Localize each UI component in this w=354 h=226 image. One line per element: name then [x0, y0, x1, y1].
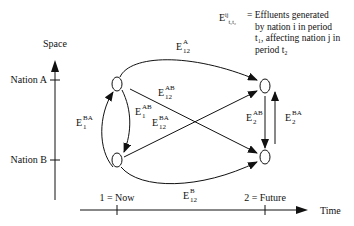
space-axis: Space Nation A Nation B — [11, 38, 68, 200]
svg-text:E: E — [152, 117, 158, 128]
edge-a1-b1 — [122, 90, 130, 152]
svg-text:E: E — [158, 87, 164, 98]
edge-a1-b2 — [130, 89, 257, 153]
label-e12-ab: E AB 12 — [158, 84, 175, 101]
svg-text:1: 1 — [83, 123, 87, 131]
svg-text:2: 2 — [292, 118, 296, 126]
svg-text:B: B — [190, 187, 195, 195]
node-b1 — [112, 153, 122, 167]
svg-text:12: 12 — [183, 47, 191, 55]
svg-text:E: E — [176, 41, 182, 52]
label-e2-ab: E AB 2 — [246, 109, 263, 126]
label-e12-ba: E BA 12 — [152, 114, 169, 131]
label-e12-a: E A 12 — [176, 38, 191, 55]
space-axis-label: Space — [43, 38, 67, 49]
svg-text:12: 12 — [159, 123, 167, 131]
edge-b1-a1 — [102, 92, 113, 167]
label-e1-ab: E AB 1 — [135, 103, 152, 120]
future-label: 2 = Future — [244, 192, 286, 203]
node-b2 — [260, 150, 270, 164]
svg-text:BA: BA — [83, 114, 93, 122]
edge-b1-b2 — [121, 162, 257, 184]
svg-text:E: E — [246, 112, 252, 123]
label-e1-ba: E BA 1 — [76, 114, 93, 131]
edge-a1-a2 — [120, 60, 257, 80]
svg-text:2: 2 — [253, 118, 257, 126]
legend-line-2: by nation i in period — [247, 22, 340, 34]
svg-text:AB: AB — [142, 103, 152, 111]
label-e12-b: E B 12 — [183, 187, 198, 204]
time-axis: Time 1 = Now 2 = Future — [80, 192, 341, 216]
svg-text:AB: AB — [253, 109, 263, 117]
svg-text:AB: AB — [165, 84, 175, 92]
time-axis-arrow-icon — [296, 206, 308, 214]
legend-line-4: period t₂ — [247, 45, 340, 57]
label-e2-ba: E BA 2 — [285, 109, 302, 126]
svg-text:12: 12 — [165, 93, 173, 101]
now-label: 1 = Now — [99, 192, 135, 203]
legend-symbol: Eijt₁t₂ — [219, 10, 236, 29]
node-a1 — [112, 77, 122, 91]
edge-b1-a2 — [124, 91, 257, 157]
svg-text:12: 12 — [190, 196, 198, 204]
legend: Eijt₁t₂ = Effluents generated by nation … — [247, 10, 340, 56]
time-axis-label: Time — [320, 205, 341, 216]
svg-text:A: A — [183, 38, 188, 46]
space-axis-arrow-icon — [51, 60, 59, 72]
svg-text:E: E — [183, 190, 189, 201]
legend-line-3: t₁, affecting nation j in — [247, 33, 340, 45]
svg-text:BA: BA — [292, 109, 302, 117]
svg-text:1: 1 — [142, 112, 146, 120]
legend-line-1: = Effluents generated — [247, 10, 340, 22]
svg-text:BA: BA — [159, 114, 169, 122]
node-a2 — [260, 79, 270, 93]
nation-b-label: Nation B — [11, 154, 48, 165]
svg-text:E: E — [285, 112, 291, 123]
svg-text:E: E — [76, 117, 82, 128]
nation-a-label: Nation A — [11, 74, 48, 85]
svg-text:E: E — [135, 106, 141, 117]
